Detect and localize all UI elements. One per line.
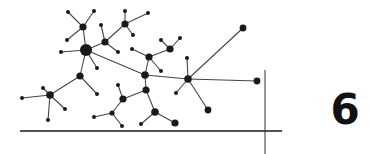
- graph-node: [92, 115, 96, 119]
- graph-node: [174, 91, 178, 95]
- graph-node: [46, 118, 50, 122]
- graph-node: [120, 124, 124, 128]
- graph-edge: [145, 75, 188, 79]
- graph-node: [95, 92, 99, 96]
- graph-edge: [125, 13, 148, 24]
- graph-node: [65, 38, 69, 42]
- axis-lines: [20, 70, 282, 154]
- graph-edge: [188, 79, 257, 81]
- graph-node: [142, 86, 149, 93]
- graph-nodes: [20, 9, 260, 128]
- graph-edge: [105, 24, 125, 42]
- graph-node: [159, 38, 163, 42]
- graph-node: [121, 20, 128, 27]
- graph-node: [131, 33, 135, 37]
- graph-node: [63, 107, 67, 111]
- graph-node: [46, 91, 54, 99]
- graph-node: [205, 107, 212, 114]
- graph-edge: [123, 90, 146, 99]
- graph-node: [123, 9, 127, 13]
- graph-edge: [22, 95, 50, 98]
- graph-node: [119, 95, 126, 102]
- graph-node: [116, 50, 120, 54]
- graph-node: [146, 11, 150, 15]
- graph-node: [95, 66, 99, 70]
- graph-edge: [50, 76, 80, 95]
- graph-edge: [80, 76, 97, 94]
- graph-node: [171, 119, 178, 126]
- graph-node: [80, 44, 92, 56]
- graph-edge: [188, 28, 243, 79]
- graph-node: [41, 86, 45, 90]
- graph-node: [66, 10, 70, 14]
- graph-node: [76, 72, 83, 79]
- chapter-number: 6: [330, 88, 360, 132]
- network-diagram: [0, 0, 370, 154]
- graph-node: [101, 38, 108, 45]
- graph-node: [116, 83, 120, 87]
- graph-edges: [22, 11, 257, 126]
- graph-node: [254, 78, 261, 85]
- graph-node: [145, 53, 152, 60]
- graph-node: [20, 96, 24, 100]
- graph-node: [139, 122, 143, 126]
- graph-node: [130, 47, 134, 51]
- graph-node: [159, 69, 163, 73]
- graph-node: [79, 23, 86, 30]
- graph-node: [59, 50, 63, 54]
- graph-node: [109, 110, 114, 115]
- graph-node: [240, 25, 247, 32]
- graph-node: [99, 23, 103, 27]
- graph-node: [185, 56, 189, 60]
- graph-edge: [94, 113, 112, 117]
- graph-edge: [86, 50, 145, 75]
- graph-node: [141, 71, 149, 79]
- graph-node: [92, 9, 96, 13]
- graph-node: [166, 45, 173, 52]
- graph-node: [151, 108, 159, 116]
- graph-node: [178, 36, 182, 40]
- graph-node: [184, 75, 192, 83]
- graph-edge: [188, 79, 208, 110]
